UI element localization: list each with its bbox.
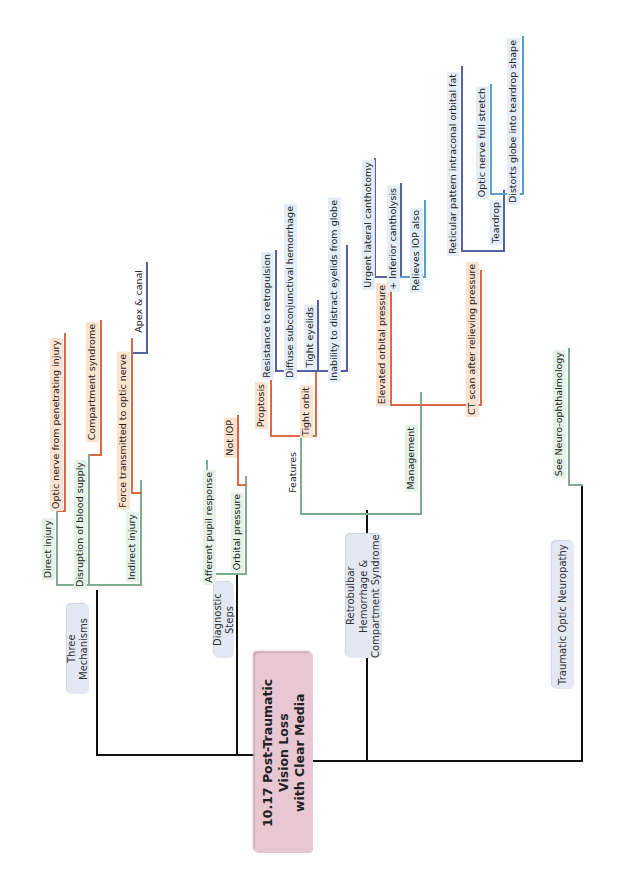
- topic-label: Three Mechanisms: [66, 604, 91, 694]
- bracket-inferior-arm: [400, 183, 402, 278]
- bracket-see-neuro: [568, 348, 570, 486]
- node-label: Management: [405, 427, 416, 490]
- node-optic-nerve-penetrating[interactable]: Optic nerve from penetrating injury: [50, 338, 63, 511]
- node-label: Indirect injury: [126, 514, 137, 580]
- topic-retrobulbar[interactable]: Retrobulbar Hemorrhage &Compartment Synd…: [346, 534, 382, 658]
- bracket-tight-eyelids-arm: [317, 300, 319, 372]
- node-ct-scan[interactable]: CT scan after relieving pressure: [466, 262, 479, 417]
- node-label: Inability to distract eyelids from globe: [328, 200, 339, 381]
- node-features[interactable]: Features: [287, 450, 300, 495]
- bracket-direct-arm: [56, 510, 58, 586]
- node-label: Disruption of blood supply: [74, 462, 85, 587]
- topic-diagnostic-steps[interactable]: Diagnostic Steps: [214, 582, 234, 658]
- bracket-retro: [300, 513, 421, 515]
- bracket-teardrop-arm: [503, 190, 505, 252]
- node-label: Afferent pupil response: [203, 472, 214, 583]
- root-line-1: 10.17 Post-Traumatic: [260, 679, 275, 827]
- line-see-neuro: [568, 484, 583, 486]
- node-tight-eyelids[interactable]: Tight eyelids: [304, 305, 317, 370]
- node-resistance-retropulsion[interactable]: Resistance to retropulsion: [261, 252, 274, 380]
- node-label: + Inferior cantholysis: [387, 188, 398, 290]
- node-direct-injury[interactable]: Direct injury: [42, 518, 55, 580]
- node-urgent-canthotomy[interactable]: Urgent lateral canthotomy: [362, 160, 375, 290]
- node-label: Force transmitted to optic nerve: [117, 354, 128, 508]
- trunk-line-bottom-left: [96, 754, 256, 756]
- bracket-proptosis-arm: [270, 380, 272, 437]
- topic-three-mechanisms[interactable]: Three Mechanisms: [67, 604, 89, 694]
- node-label: Diffuse subconjunctival hemorrhage: [284, 206, 295, 378]
- node-diffuse-hemorrhage[interactable]: Diffuse subconjunctival hemorrhage: [284, 204, 297, 380]
- bracket-resistance-arm: [275, 250, 277, 372]
- root-line-3: with Clear Media: [292, 694, 307, 813]
- node-label: Elevated orbital pressure: [376, 285, 387, 404]
- bracket-ct-arm: [480, 270, 482, 406]
- bracket-features-arm: [300, 435, 302, 515]
- node-afferent-pupil[interactable]: Afferent pupil response: [203, 470, 216, 585]
- bracket-direct-child: [64, 333, 66, 512]
- node-not-iop[interactable]: Not IOP: [224, 418, 237, 458]
- node-label: Optic nerve full stretch: [476, 88, 487, 197]
- root-line-2: Vision Loss: [276, 714, 291, 793]
- bracket-orbital-arm: [245, 476, 247, 575]
- node-label: See Neuro-ophthalmology: [553, 352, 564, 476]
- bracket-tight-orbit-arm: [315, 370, 317, 437]
- node-proptosis[interactable]: Proptosis: [255, 382, 268, 429]
- bracket-three-mechanisms: [56, 584, 142, 586]
- node-disruption-blood-supply[interactable]: Disruption of blood supply: [74, 460, 87, 589]
- topic-label-line-2: Compartment Syndrome: [370, 534, 381, 658]
- node-force-transmitted[interactable]: Force transmitted to optic nerve: [117, 352, 130, 510]
- bracket-inability-arm: [346, 245, 348, 372]
- node-apex-canal[interactable]: Apex & canal: [133, 268, 146, 335]
- trunk-line-left: [96, 590, 98, 756]
- node-relieves-iop[interactable]: Relieves IOP also: [410, 208, 423, 293]
- node-label: Tight eyelids: [304, 307, 315, 368]
- bracket-disruption-child: [100, 320, 102, 456]
- bracket-management-arm: [420, 392, 422, 515]
- node-compartment-syndrome[interactable]: Compartment syndrome: [86, 322, 99, 442]
- line-features-child: [270, 435, 302, 437]
- node-label: Not IOP: [224, 420, 235, 456]
- node-label: Optic nerve from penetrating injury: [50, 340, 61, 509]
- node-reticular-pattern[interactable]: Reticular pattern intraconal orbital fat: [447, 72, 460, 256]
- node-label: Resistance to retropulsion: [261, 254, 272, 378]
- trunk-line-traumatic: [581, 486, 583, 762]
- node-label: Urgent lateral canthotomy: [362, 162, 373, 288]
- topic-label: Diagnostic Steps: [212, 582, 237, 658]
- node-management[interactable]: Management: [405, 425, 418, 492]
- node-label: Tight orbit: [300, 387, 311, 436]
- bracket-indirect-arm: [140, 480, 142, 586]
- trunk-line-bottom-right: [313, 760, 583, 762]
- node-label: Apex & canal: [133, 270, 144, 333]
- node-label: Compartment syndrome: [86, 324, 97, 440]
- node-label: Teardrop: [490, 202, 501, 243]
- root-topic[interactable]: 10.17 Post-TraumaticVision Losswith Clea…: [255, 653, 313, 853]
- node-optic-nerve-stretch[interactable]: Optic nerve full stretch: [476, 86, 489, 199]
- node-label: Orbital pressure: [231, 494, 242, 570]
- node-label: Features: [287, 452, 298, 493]
- bracket-indirect-child: [131, 338, 133, 494]
- line-disruption-child: [90, 454, 100, 456]
- node-distorts-globe[interactable]: Distorts globe into teardrop shape: [507, 38, 520, 205]
- node-label: Direct injury: [42, 520, 53, 578]
- node-label: Distorts globe into teardrop shape: [507, 40, 518, 203]
- line-apex: [133, 352, 147, 354]
- node-label: Reticular pattern intraconal orbital fat: [447, 74, 458, 254]
- node-orbital-pressure[interactable]: Orbital pressure: [231, 492, 244, 572]
- topic-traumatic-optic-neuropathy[interactable]: Traumatic Optic Neuropathy: [552, 541, 574, 689]
- node-elevated-orbital-pressure[interactable]: Elevated orbital pressure: [376, 283, 389, 406]
- line-teardrop-join: [461, 250, 505, 252]
- topic-label-line-1: Retrobulbar Hemorrhage &: [345, 559, 369, 632]
- bracket-distorts-arm: [522, 36, 524, 195]
- node-label: CT scan after relieving pressure: [466, 264, 477, 415]
- node-indirect-injury[interactable]: Indirect injury: [126, 512, 139, 582]
- node-tight-orbit[interactable]: Tight orbit: [300, 385, 313, 438]
- bracket-optic-stretch-arm: [490, 84, 492, 195]
- node-inability-distract[interactable]: Inability to distract eyelids from globe: [328, 198, 341, 383]
- node-teardrop[interactable]: Teardrop: [490, 200, 503, 245]
- bracket-relieves-arm: [424, 200, 426, 278]
- node-see-neuro-ophthalmology[interactable]: See Neuro-ophthalmology: [553, 350, 566, 478]
- node-label: Proptosis: [255, 384, 266, 427]
- bracket-apex: [146, 262, 148, 354]
- node-inferior-cantholysis[interactable]: + Inferior cantholysis: [387, 186, 400, 292]
- bracket-disruption-arm: [88, 454, 90, 585]
